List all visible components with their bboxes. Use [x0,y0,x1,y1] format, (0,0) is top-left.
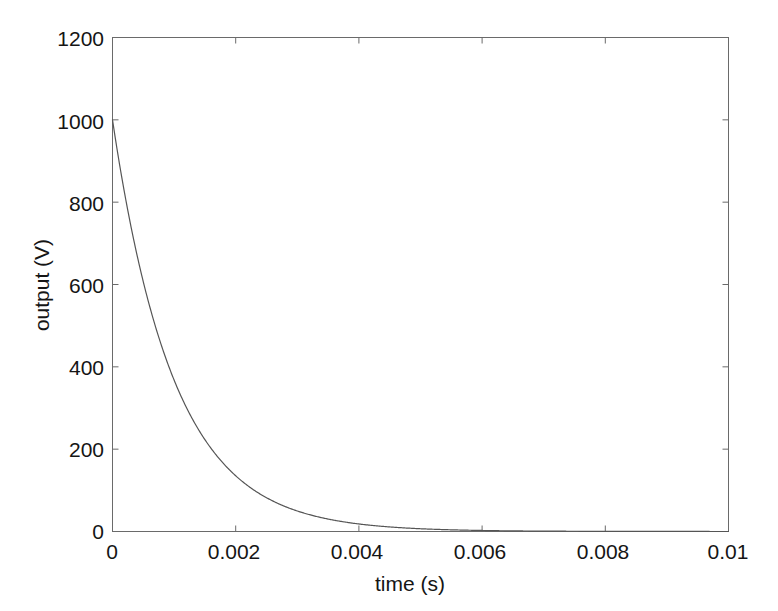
ytick-label-1000: 1000 [28,110,104,134]
data-line-output [113,120,729,532]
xtick-label-0: 0 [72,540,152,564]
tick-marks [113,38,729,532]
ytick-label-1200: 1200 [28,27,104,51]
xtick-label-001: 0.01 [688,540,768,564]
ytick-label-400: 400 [28,356,104,380]
xtick-label-0008: 0.008 [563,540,643,564]
ytick-label-200: 200 [28,438,104,462]
plot-area [0,0,778,611]
xtick-label-0006: 0.006 [440,540,520,564]
x-axis-label: time (s) [340,572,480,596]
xtick-label-0002: 0.002 [194,540,274,564]
y-axis-label: output (V) [30,215,54,355]
xtick-label-0004: 0.004 [317,540,397,564]
axes-frame [113,38,729,532]
ytick-label-800: 800 [28,192,104,216]
figure-canvas: 0 200 400 600 800 1000 1200 0 0.002 0.00… [0,0,778,611]
